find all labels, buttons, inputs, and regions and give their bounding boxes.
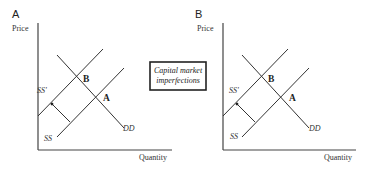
panel-a-supply-label: SS (44, 134, 52, 143)
capital-market-imperfections-box: Capital market imperfections (150, 62, 206, 90)
panel-a-demand-curve (57, 55, 124, 128)
panel-a-point-b: B (83, 74, 90, 84)
panel-a-shifted-supply-curve (38, 49, 103, 116)
panel-a-demand-label: DD (122, 124, 135, 133)
panel-a-supply-curve (57, 68, 124, 137)
panel-a-x-axis-label: Quantity (139, 153, 167, 162)
center-box-line2: imperfections (156, 76, 200, 85)
panel-a-point-a: A (103, 93, 110, 103)
panel-a-shifted-supply-label: SS' (37, 86, 47, 95)
panel-b-demand-label: DD (308, 124, 321, 133)
panel-b-supply-label: SS (230, 132, 238, 141)
panel-a-shift-arrow (52, 104, 70, 122)
diagram-canvas: A Price Quantity SS' SS DD B A Capital m… (0, 0, 366, 169)
panel-a: A Price Quantity SS' SS DD B A (12, 8, 172, 162)
panel-a-letter: A (12, 8, 20, 20)
panel-b-shift-arrow (237, 104, 255, 122)
panel-b-shifted-supply-label: SS' (229, 86, 239, 95)
panel-b-y-axis-label: Price (197, 24, 214, 33)
panel-b-supply-curve (242, 68, 309, 137)
panel-a-y-axis-label: Price (12, 24, 29, 33)
center-box-line1: Capital market (154, 66, 203, 75)
panel-b-x-axis-label: Quantity (324, 153, 352, 162)
panel-b-shifted-supply-curve (223, 49, 288, 116)
panel-b-point-a: A (289, 93, 296, 103)
panel-b-point-b: B (268, 74, 275, 84)
panel-b-letter: B (195, 8, 202, 20)
panel-b: B Price Quantity SS' SS DD B A (195, 8, 356, 162)
panel-b-demand-curve (242, 55, 309, 128)
